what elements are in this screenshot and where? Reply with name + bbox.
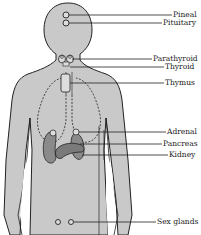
sex-gland-right [69, 220, 74, 225]
left-kidney [43, 132, 56, 163]
label-kidney: Kidney [169, 151, 195, 159]
pituitary-gland [63, 20, 69, 26]
adrenal-gland [73, 129, 79, 135]
pineal-gland [63, 12, 69, 18]
thymus-gland [61, 74, 70, 92]
label-thymus: Thymus [165, 79, 195, 87]
body-outline-figure [0, 0, 201, 235]
label-thyroid: Thyroid [165, 63, 194, 71]
label-pancreas: Pancreas [163, 140, 198, 148]
endocrine-diagram: Pineal Pituitary Parathyroid Thyroid Thy… [0, 0, 201, 235]
label-sex-glands: Sex glands [157, 218, 198, 226]
label-adrenal: Adrenal [167, 128, 197, 136]
label-pituitary: Pituitary [163, 19, 196, 27]
sex-gland-left [56, 220, 61, 225]
